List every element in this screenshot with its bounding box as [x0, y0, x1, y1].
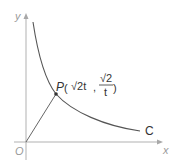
- point-p-label: P ( √2t , √2 t ): [56, 72, 117, 98]
- y-coordinate-numerator: √2: [100, 72, 112, 84]
- origin-label: O: [15, 145, 24, 157]
- comma: ,: [93, 81, 96, 93]
- y-axis-arrow-icon: [24, 13, 29, 19]
- x-coordinate: √2t: [71, 80, 86, 92]
- x-axis-label: x: [162, 144, 169, 156]
- y-coordinate-denominator: t: [104, 86, 107, 98]
- left-paren: (: [64, 82, 68, 94]
- curve-label: C: [145, 124, 154, 138]
- point-name: P: [56, 80, 64, 94]
- diagram-canvas: y x O C P ( √2t , √2 t ): [0, 0, 181, 165]
- curve-c: [33, 22, 140, 131]
- segment-op: [26, 94, 56, 142]
- right-paren: ): [113, 82, 117, 94]
- y-axis-label: y: [14, 10, 22, 22]
